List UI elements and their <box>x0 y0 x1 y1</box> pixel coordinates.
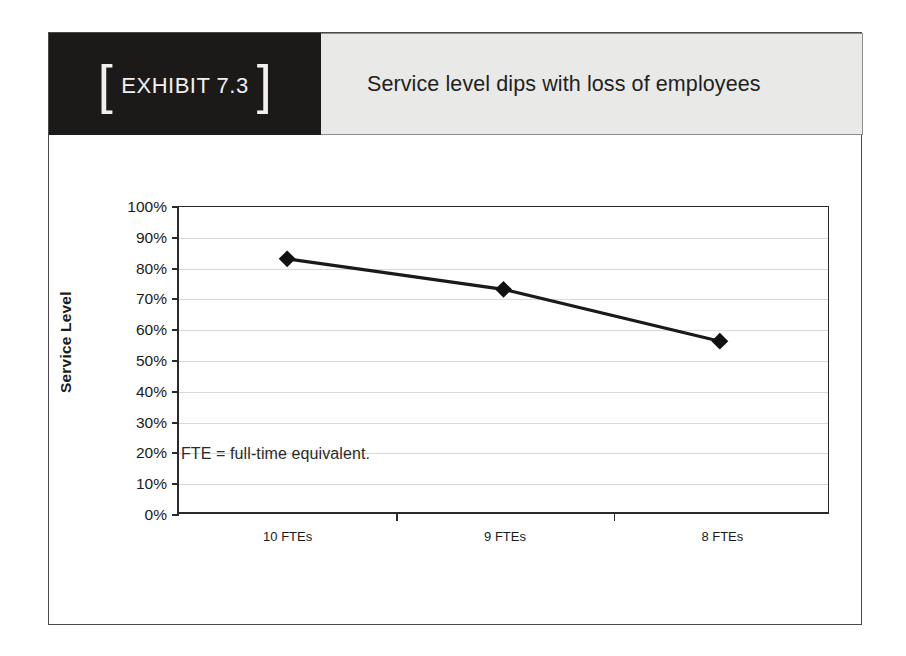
y-axis-tick <box>172 452 179 454</box>
y-axis-label: 30% <box>136 414 167 432</box>
y-axis-tick <box>172 422 179 424</box>
left-bracket-icon: [ <box>98 65 114 104</box>
x-axis-label: 8 FTEs <box>701 529 743 544</box>
data-point-marker <box>495 281 512 298</box>
chart-footnote: FTE = full-time equivalent. <box>181 445 370 463</box>
y-axis-tick <box>172 483 179 485</box>
y-axis-title: Service Level <box>57 371 75 393</box>
x-axis-tick <box>614 512 616 521</box>
exhibit-tag-inner: [ EXHIBIT 7.3 ] <box>98 67 273 106</box>
exhibit-title-bar: Service level dips with loss of employee… <box>321 33 863 135</box>
plot-area: 0%10%20%30%40%50%60%70%80%90%100% 10 FTE… <box>177 206 829 514</box>
chart-region: Service Level 0%10%20%30%40%50%60%70%80%… <box>49 135 863 624</box>
y-axis-tick <box>172 237 179 239</box>
y-axis-label: 90% <box>136 229 167 247</box>
y-axis-tick <box>172 206 179 208</box>
data-point-marker <box>711 333 728 350</box>
y-axis-tick <box>172 514 179 516</box>
data-point-marker <box>279 250 296 267</box>
y-axis-tick <box>172 329 179 331</box>
y-axis-label: 40% <box>136 383 167 401</box>
exhibit-tag-label: EXHIBIT 7.3 <box>121 73 248 99</box>
right-bracket-icon: ] <box>257 65 273 104</box>
y-axis-tick <box>172 268 179 270</box>
y-axis-label: 10% <box>136 475 167 493</box>
y-axis-label: 70% <box>136 290 167 308</box>
exhibit-header: [ EXHIBIT 7.3 ] Service level dips with … <box>49 33 863 135</box>
y-axis-label: 60% <box>136 321 167 339</box>
series-line <box>287 259 720 341</box>
series-line-chart <box>179 207 828 512</box>
y-axis-tick <box>172 298 179 300</box>
x-axis-label: 9 FTEs <box>484 529 526 544</box>
exhibit-title: Service level dips with loss of employee… <box>367 72 761 97</box>
exhibit-tag-block: [ EXHIBIT 7.3 ] <box>49 33 321 135</box>
y-axis-tick <box>172 391 179 393</box>
exhibit-frame: [ EXHIBIT 7.3 ] Service level dips with … <box>48 32 862 625</box>
y-axis-tick <box>172 360 179 362</box>
y-axis-label: 20% <box>136 444 167 462</box>
x-axis-tick <box>396 512 398 521</box>
y-axis-label: 50% <box>136 352 167 370</box>
y-axis-label: 0% <box>145 506 167 524</box>
y-axis-label: 100% <box>127 198 167 216</box>
y-axis-label: 80% <box>136 260 167 278</box>
x-axis-label: 10 FTEs <box>263 529 312 544</box>
